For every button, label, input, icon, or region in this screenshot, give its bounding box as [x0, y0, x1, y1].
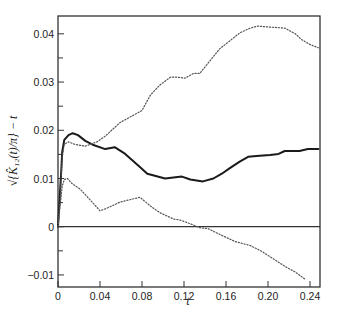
- y-tick-label: −0.01: [27, 269, 54, 281]
- plot-frame: [58, 16, 320, 287]
- series-lower-envelope: [58, 179, 306, 280]
- x-tick-label: 0.20: [258, 290, 279, 302]
- y-tick-label: 0.03: [34, 76, 55, 88]
- y-tick-label: 0: [48, 221, 54, 233]
- series-upper-envelope: [58, 26, 318, 227]
- series-observed: [58, 133, 318, 227]
- x-tick-label: 0.04: [90, 290, 111, 302]
- series-layer: [58, 26, 318, 280]
- y-tick-label: 0.04: [34, 28, 55, 40]
- x-tick-label: 0: [55, 290, 61, 302]
- x-tick-label: 0.12: [174, 290, 195, 302]
- x-tick-label: 0.24: [300, 290, 321, 302]
- plot-area: [58, 16, 320, 287]
- y-tick-label: 0.02: [34, 124, 55, 136]
- chart: 00.040.080.120.160.200.24 −0.0100.010.02…: [0, 0, 337, 329]
- x-tick-label: 0.16: [216, 290, 237, 302]
- y-tick-label: 0.01: [34, 173, 55, 185]
- x-tick-label: 0.08: [132, 290, 153, 302]
- y-axis-label: √{K̂₁₂(t)/π} − t: [6, 115, 20, 186]
